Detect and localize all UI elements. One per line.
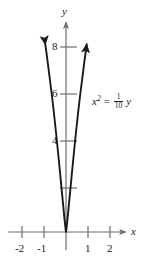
- x-axis-label: x: [131, 226, 136, 237]
- equation-equals-sign: =: [104, 96, 110, 107]
- parabola-figure: 8 6 4 -2 -1 1 2 y x x2 = 1 10 y: [0, 0, 146, 268]
- equation-lhs-exponent: 2: [97, 95, 101, 103]
- x-tick-label--1: -1: [37, 243, 46, 254]
- fraction-numerator: 1: [116, 93, 122, 101]
- equation-rhs-variable: y: [126, 96, 131, 107]
- y-tick-label-8: 8: [52, 41, 58, 52]
- y-tick-label-4: 4: [52, 135, 58, 146]
- x-tick-label-2: 2: [107, 243, 113, 254]
- y-tick-label-6: 6: [52, 88, 58, 99]
- fraction-denominator: 10: [114, 102, 124, 110]
- equation-fraction: 1 10: [114, 93, 124, 110]
- x-tick-label--2: -2: [15, 243, 24, 254]
- x-tick-label-1: 1: [85, 243, 91, 254]
- equation-annotation: x2 = 1 10 y: [92, 93, 131, 110]
- y-axis-label: y: [62, 6, 67, 17]
- graph-canvas: [0, 0, 146, 268]
